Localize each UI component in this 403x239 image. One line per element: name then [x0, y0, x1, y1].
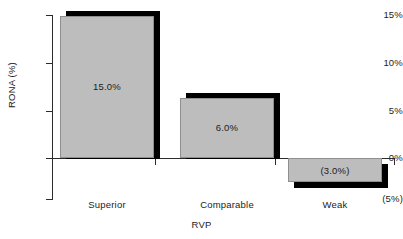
y-tick-mark: [46, 199, 53, 200]
chart-title-cutoff: [60, 0, 340, 3]
bar-chart: 15% 10% 5% 0% (5%) RONA (%) 15.0% 6.0% (…: [0, 0, 403, 239]
y-tick-label-15: 15%: [359, 10, 403, 20]
x-tick-mark: [155, 159, 156, 165]
x-tick-mark: [275, 159, 276, 165]
y-tick-mark: [46, 111, 53, 112]
x-category-label-superior: Superior: [60, 199, 154, 210]
x-axis-title: RVP: [0, 219, 403, 230]
y-axis-line: [52, 15, 53, 199]
y-axis-title: RONA (%): [7, 40, 17, 130]
bar-value-comparable: 6.0%: [180, 122, 274, 133]
bar-value-superior: 15.0%: [60, 81, 154, 92]
bar-value-weak: (3.0%): [288, 165, 382, 176]
x-category-label-comparable: Comparable: [172, 199, 282, 210]
x-tick-mark: [394, 159, 395, 165]
y-tick-mark: [46, 15, 53, 16]
y-tick-label-5: 5%: [359, 106, 403, 116]
y-tick-mark: [46, 63, 53, 64]
y-tick-label-10: 10%: [359, 58, 403, 68]
x-category-label-weak: Weak: [288, 199, 382, 210]
